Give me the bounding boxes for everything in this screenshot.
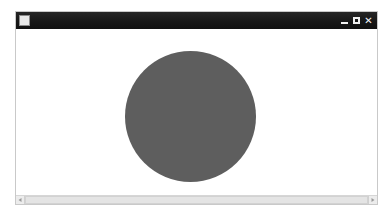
minimize-glyph <box>341 22 348 24</box>
drawing-canvas[interactable] <box>16 29 377 195</box>
desktop-background: ✕ <box>0 0 391 219</box>
horizontal-scrollbar[interactable] <box>16 195 377 204</box>
title-bar[interactable]: ✕ <box>16 12 377 29</box>
scroll-left-arrow-icon[interactable] <box>16 196 25 204</box>
client-area <box>16 29 377 195</box>
application-icon <box>19 15 30 26</box>
maximize-glyph <box>353 17 360 24</box>
scroll-right-arrow-icon[interactable] <box>368 196 377 204</box>
close-glyph: ✕ <box>364 16 372 25</box>
close-icon[interactable]: ✕ <box>364 15 373 26</box>
maximize-icon[interactable] <box>352 15 361 26</box>
application-window: ✕ <box>15 11 378 205</box>
minimize-icon[interactable] <box>340 15 349 26</box>
gray-circle-shape[interactable] <box>125 51 256 182</box>
scrollbar-thumb[interactable] <box>25 196 368 204</box>
window-controls: ✕ <box>340 15 375 26</box>
scrollbar-track[interactable] <box>25 196 368 204</box>
